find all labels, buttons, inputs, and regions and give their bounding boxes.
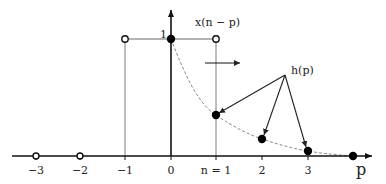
tick-label-minus-2: −2 <box>72 164 88 177</box>
open-sample-minus-3 <box>33 153 39 159</box>
sample-point-3 <box>304 147 312 155</box>
tick-label-3: 3 <box>305 164 312 177</box>
open-sample-minus-2 <box>77 153 83 159</box>
amplitude-one-label: 1 <box>160 28 167 41</box>
tick-label-2: 2 <box>259 164 266 177</box>
open-endpoint-left <box>122 36 128 42</box>
sample-point-1 <box>212 111 220 119</box>
open-endpoint-right <box>213 36 219 42</box>
tick-label-n-1: n = 1 <box>201 164 231 177</box>
tick-label-minus-3: −3 <box>28 164 44 177</box>
tick-label-minus-1: −1 <box>117 164 133 177</box>
tick-label-0: 0 <box>168 164 175 177</box>
sample-point-2 <box>258 135 266 143</box>
sample-point-0 <box>167 35 175 43</box>
convolution-diagram: −3 −2 −1 0 n = 1 2 3 p 1 x(n − p) h(p) <box>0 0 386 184</box>
sample-point-4 <box>349 152 357 160</box>
x-n-minus-p-label: x(n − p) <box>195 16 240 29</box>
h-p-label: h(p) <box>291 64 314 77</box>
axis-variable-label: p <box>356 160 366 179</box>
